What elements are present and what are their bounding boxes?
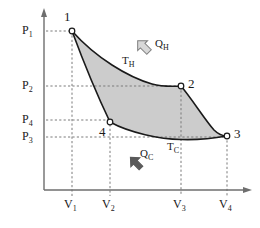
carnot-cycle-diagram: P1 P2 P4 P3 V1 V2 V3 V4 1 2 3 4 QH QC TH… xyxy=(0,0,260,228)
diagram-canvas xyxy=(0,0,260,228)
state-point-marker-2 xyxy=(178,83,184,89)
x-tick-label-v2: V2 xyxy=(102,198,115,213)
hot-isotherm-label: TH xyxy=(122,55,135,69)
state-point-label-4: 4 xyxy=(99,125,106,138)
x-tick-label-v4: V4 xyxy=(219,198,232,213)
y-axis-arrow-icon xyxy=(41,8,47,17)
heat-out-label: QC xyxy=(140,148,153,162)
y-tick-label-p4: P4 xyxy=(22,113,33,128)
x-tick-label-v3: V3 xyxy=(173,198,186,213)
y-tick-label-p2: P2 xyxy=(22,79,33,94)
state-point-marker-4 xyxy=(107,119,113,125)
heat-in-arrow-icon xyxy=(133,36,154,57)
state-point-marker-3 xyxy=(224,133,230,139)
x-tick-label-v1: V1 xyxy=(64,198,77,213)
state-point-label-1: 1 xyxy=(64,10,71,23)
state-point-label-3: 3 xyxy=(234,127,241,140)
y-tick-label-p3: P3 xyxy=(22,130,33,145)
state-point-label-2: 2 xyxy=(188,77,195,90)
state-point-marker-1 xyxy=(69,28,75,34)
y-tick-label-p1: P1 xyxy=(22,24,33,39)
x-axis-arrow-icon xyxy=(243,187,252,193)
cold-isotherm-label: TC xyxy=(167,141,179,155)
heat-in-label: QH xyxy=(155,38,169,52)
